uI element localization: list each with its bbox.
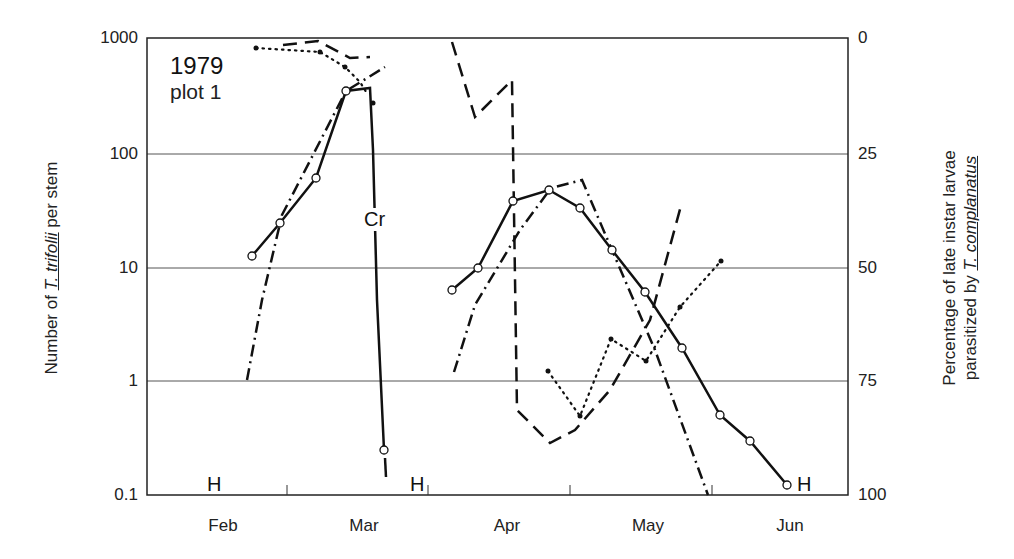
y-tick-0.1: 0.1 [78,485,138,505]
spring-dotted-markers [546,259,724,419]
y-tick-1: 1 [78,371,138,391]
annotation-cr: Cr [363,208,386,231]
y2-tick-25: 25 [858,144,877,164]
x-tick-may: May [618,516,678,536]
y2-label-pre: parasitized by [961,275,980,380]
y2-label-species: T. complanatus [961,156,980,271]
series-spring-dotted [548,261,721,416]
x-ticks [287,485,712,495]
y-label-species: T. trifolii [42,232,61,290]
y-label-post: per stem [42,162,61,228]
annotation-h-jun: H [797,473,811,496]
x-tick-jun: Jun [760,516,820,536]
spring-markers [448,186,791,489]
series-spring-dashed [452,42,682,443]
y2-axis-label: Percentage of late instar larvae parasit… [939,150,981,385]
y2-label-line2: parasitized by T. complanatus [960,150,981,385]
chart-canvas [0,0,1014,559]
series-spring-solid [452,190,787,485]
y2-tick-75: 75 [858,371,877,391]
y-tick-1000: 1000 [78,28,138,48]
chart-subtitle: plot 1 [170,80,221,104]
chart-title: 1979 [170,52,223,80]
annotation-h-feb: H [207,473,221,496]
early-markers [248,87,388,454]
y-tick-100: 100 [78,144,138,164]
y-label-pre: Number of [42,295,61,374]
y-tick-10: 10 [78,258,138,278]
x-tick-mar: Mar [334,516,394,536]
x-tick-apr: Apr [477,516,537,536]
y2-tick-0: 0 [858,28,867,48]
x-tick-feb: Feb [193,516,253,536]
y-axis-label: Number of T. trifolii per stem [42,162,62,375]
annotation-h-mar: H [410,473,424,496]
y2-tick-50: 50 [858,258,877,278]
series-early-solid [252,88,384,450]
y2-tick-100: 100 [858,485,886,505]
y2-label-line1: Percentage of late instar larvae [939,150,960,385]
series-spring-dashdot [454,180,708,495]
